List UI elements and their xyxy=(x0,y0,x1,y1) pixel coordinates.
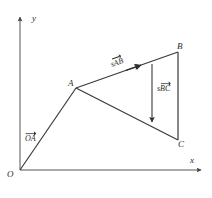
vector-label-OA: OA xyxy=(25,135,36,143)
vector-label-OA-text: OA xyxy=(25,135,36,143)
segment-AC xyxy=(76,88,178,140)
point-label-B: B xyxy=(177,42,183,51)
segment-OA xyxy=(20,88,76,170)
vector-overarrow-icon xyxy=(26,131,37,136)
origin-label: O xyxy=(7,170,14,179)
vector-label-sBC: sBC xyxy=(157,85,170,93)
vector-label-sBC-text: sBC xyxy=(157,85,170,93)
arrowhead-sAB xyxy=(126,65,141,70)
y-axis-label: y xyxy=(32,14,36,23)
point-label-A: A xyxy=(68,79,74,88)
x-axis-label: x xyxy=(190,156,194,165)
vector-diagram-figure: A B C O x y OA sAB sBC xyxy=(0,0,212,198)
figure-canvas xyxy=(0,0,212,198)
vector-overarrow-icon xyxy=(161,81,171,86)
point-label-C: C xyxy=(178,140,184,149)
